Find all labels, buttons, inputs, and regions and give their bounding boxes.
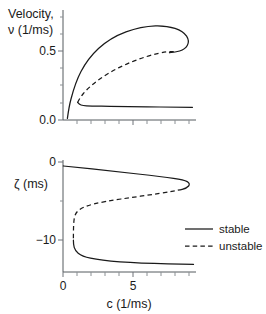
upper-curves bbox=[67, 26, 192, 119]
lower-stable-upper-branch bbox=[63, 166, 189, 189]
lower-unstable-branch bbox=[73, 189, 182, 240]
legend: stable unstable bbox=[185, 223, 262, 252]
bifurcation-figure: Velocity, ν (1/ms) 0.5 0.0 bbox=[0, 0, 266, 314]
upper-ytick-label-1: 0.0 bbox=[39, 113, 56, 127]
upper-panel: Velocity, ν (1/ms) 0.5 0.0 bbox=[8, 7, 196, 127]
upper-ylabel-line1: Velocity, bbox=[8, 7, 54, 21]
legend-label-unstable: unstable bbox=[219, 240, 262, 252]
lower-x-ticks bbox=[63, 272, 189, 277]
lower-panel: ζ (ms) 0 −10 bbox=[14, 155, 196, 311]
upper-y-ticks bbox=[58, 17, 63, 120]
upper-stable-upper-branch bbox=[67, 26, 188, 119]
lower-y-ticks bbox=[58, 162, 63, 240]
upper-stable-lower-branch bbox=[78, 102, 193, 107]
upper-ylabel-line2: ν (1/ms) bbox=[8, 23, 53, 37]
lower-ytick-label-0: 0 bbox=[49, 155, 56, 169]
upper-ytick-label-0: 0.5 bbox=[39, 44, 56, 58]
lower-ytick-label-1: −10 bbox=[36, 233, 57, 247]
upper-x-ticks bbox=[77, 120, 189, 125]
lower-xlabel: c (1/ms) bbox=[106, 297, 151, 311]
lower-xtick-label-0: 0 bbox=[60, 279, 67, 293]
lower-curves bbox=[63, 166, 193, 264]
lower-ylabel: ζ (ms) bbox=[14, 177, 48, 191]
lower-stable-lower-branch bbox=[73, 240, 193, 264]
lower-xtick-label-1: 5 bbox=[130, 279, 137, 293]
legend-label-stable: stable bbox=[219, 223, 250, 235]
upper-unstable-branch bbox=[78, 52, 174, 103]
